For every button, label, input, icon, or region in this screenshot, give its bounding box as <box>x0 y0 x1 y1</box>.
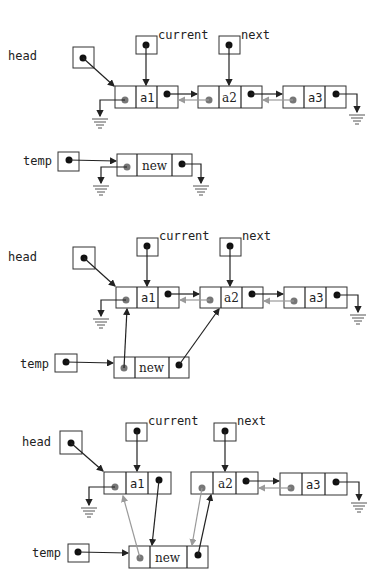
next-label: next <box>237 414 266 428</box>
node-a3: a3 <box>283 86 346 108</box>
current-label: current <box>148 414 199 428</box>
node-value: a1 <box>140 91 154 105</box>
node-new: new <box>114 357 189 378</box>
node-value: a2 <box>218 477 233 491</box>
node-value: a2 <box>222 91 237 105</box>
node-value: new <box>139 361 165 375</box>
node-a3: a3 <box>284 287 347 308</box>
current-label: current <box>159 229 210 243</box>
next-label: next <box>242 229 271 243</box>
node-a2: a2 <box>200 287 263 308</box>
node-value: a2 <box>224 291 239 305</box>
node-value: a3 <box>309 291 323 305</box>
head-label: head <box>22 435 51 449</box>
panel-step-3: head current next a1 a2 <box>22 414 367 568</box>
panel-step-2: head current next a1 a2 <box>8 229 366 378</box>
null-ground-icon <box>350 315 366 324</box>
next-label: next <box>241 28 270 42</box>
head-arrow <box>84 258 115 286</box>
a2-prev-to-new-arrow <box>192 488 202 545</box>
node-a1: a1 <box>115 86 178 108</box>
node-value: a1 <box>130 477 144 491</box>
node-a1: a1 <box>104 472 171 494</box>
null-ground-icon <box>193 186 209 195</box>
node-new: new <box>117 154 192 176</box>
null-ground-icon <box>93 186 109 195</box>
linked-list-diagram: head current next a1 a2 <box>0 0 390 581</box>
current-label: current <box>158 28 209 42</box>
temp-label: temp <box>20 357 49 371</box>
temp-label: temp <box>32 546 61 560</box>
node-a2: a2 <box>198 86 262 108</box>
null-ground-icon <box>81 508 97 517</box>
null-ground-icon <box>349 115 365 124</box>
temp-label: temp <box>23 154 52 168</box>
node-value: new <box>142 159 168 173</box>
node-a3: a3 <box>280 473 347 495</box>
head-arrow <box>71 443 103 471</box>
node-value: new <box>155 551 181 565</box>
head-label: head <box>8 250 37 264</box>
null-ground-icon <box>351 503 367 512</box>
null-ground-icon <box>92 119 108 128</box>
panel-step-1: head current next a1 a2 <box>8 28 365 195</box>
node-value: a3 <box>308 91 322 105</box>
node-new: new <box>129 546 208 568</box>
head-label: head <box>8 49 37 63</box>
null-ground-icon <box>93 319 109 328</box>
head-arrow <box>83 58 114 86</box>
node-value: a3 <box>306 478 320 492</box>
new-next-to-a2-arrow <box>179 309 219 365</box>
node-value: a1 <box>141 291 155 305</box>
node-a1: a1 <box>116 287 179 308</box>
